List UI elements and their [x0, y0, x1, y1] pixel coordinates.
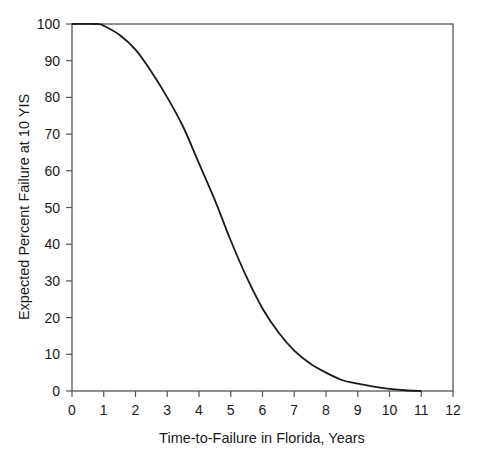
x-tick-label: 10: [382, 402, 398, 418]
y-axis-title: Expected Percent Failure at 10 YIS: [16, 94, 32, 320]
x-tick-label: 7: [290, 402, 298, 418]
x-tick-label: 6: [259, 402, 267, 418]
x-axis-ticks: 0123456789101112: [68, 391, 461, 418]
x-tick-label: 11: [414, 402, 429, 418]
y-tick-label: 0: [52, 383, 60, 399]
x-tick-label: 0: [68, 402, 76, 418]
x-tick-label: 2: [132, 402, 140, 418]
chart: 0102030405060708090100 0123456789101112 …: [0, 0, 481, 460]
y-tick-label: 40: [44, 236, 60, 252]
x-tick-label: 3: [163, 402, 171, 418]
y-tick-label: 10: [44, 346, 60, 362]
y-tick-label: 20: [44, 310, 60, 326]
y-tick-label: 60: [44, 163, 60, 179]
x-tick-label: 4: [195, 402, 203, 418]
y-tick-label: 90: [44, 53, 60, 69]
x-tick-label: 8: [322, 402, 330, 418]
y-tick-label: 50: [44, 200, 60, 216]
plot-border: [72, 24, 453, 391]
y-tick-label: 70: [44, 126, 60, 142]
y-tick-label: 100: [37, 16, 61, 32]
y-tick-label: 30: [44, 273, 60, 289]
y-tick-label: 80: [44, 89, 60, 105]
x-axis-title: Time-to-Failure in Florida, Years: [159, 430, 365, 446]
x-tick-label: 12: [445, 402, 461, 418]
y-axis-ticks: 0102030405060708090100: [37, 16, 72, 399]
x-tick-label: 9: [354, 402, 362, 418]
x-tick-label: 1: [100, 402, 108, 418]
plot-area-frame: [72, 24, 453, 391]
x-tick-label: 5: [227, 402, 235, 418]
failure-curve: [72, 24, 421, 391]
